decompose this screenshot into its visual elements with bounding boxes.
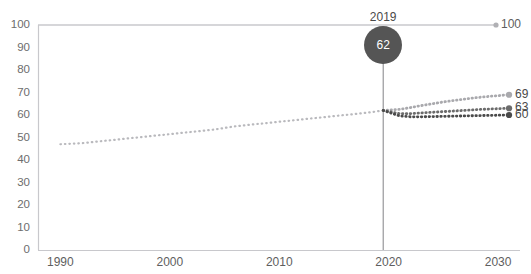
annotation-year-label: 2019 [353, 10, 413, 24]
series-endpoint-dot-projection-mid [506, 105, 512, 111]
y-tick-label: 80 [2, 63, 30, 75]
y-tick-label: 30 [2, 176, 30, 188]
y-tick-label: 10 [2, 221, 30, 233]
y-tick-label: 50 [2, 131, 30, 143]
reference-line-end-dot [493, 22, 498, 27]
series-group [60, 92, 512, 145]
endpoint-label-projection-high: 69 [515, 87, 528, 101]
y-tick-label: 20 [2, 198, 30, 210]
x-tick-label: 2030 [468, 255, 528, 269]
y-tick-label: 40 [2, 153, 30, 165]
series-line-historical [60, 111, 383, 145]
y-tick-label: 0 [2, 243, 30, 255]
reference-line-label: 100 [501, 17, 521, 31]
y-tick-label: 70 [2, 86, 30, 98]
y-tick-label: 100 [2, 18, 30, 30]
endpoint-label-projection-low: 60 [515, 107, 528, 121]
series-endpoint-dot-projection-high [506, 92, 512, 98]
y-tick-label: 90 [2, 41, 30, 53]
axes-group [38, 22, 520, 250]
chart-container: 1009080706050403020100 19902000201020202… [0, 0, 531, 274]
y-tick-label: 60 [2, 108, 30, 120]
x-tick-label: 2000 [140, 255, 200, 269]
chart-plot-area [0, 0, 531, 274]
x-tick-label: 2020 [359, 255, 419, 269]
series-line-projection-high [383, 95, 509, 111]
x-tick-label: 2010 [249, 255, 309, 269]
x-tick-label: 1990 [30, 255, 90, 269]
series-endpoint-dot-projection-low [506, 112, 512, 118]
annotation-value-bubble: 62 [364, 26, 402, 64]
